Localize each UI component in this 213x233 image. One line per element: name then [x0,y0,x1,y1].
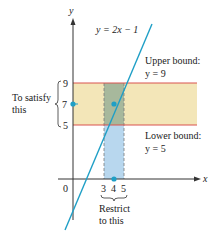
center-point [111,101,116,106]
restrict-label-line2: to this [99,215,124,226]
x-tick-3: 3 [101,183,106,194]
function-line [65,24,152,230]
lower-bound-title: Lower bound: [145,130,201,141]
lower-bound-value: y = 5 [145,143,166,154]
bottom-brace-icon [101,195,127,201]
equation-label: y = 2x − 1 [95,24,138,35]
x-tick-4: 4 [111,183,116,194]
x4-point [111,176,116,181]
satisfy-label-line1: To satisfy [12,92,51,103]
y-axis-arrow-icon [71,18,76,25]
x-axis-arrow-icon [194,177,201,182]
upper-bound-title: Upper bound: [145,55,200,66]
satisfy-label-line2: this [12,104,27,115]
epsilon-delta-diagram: y x 0 9 7 5 3 4 5 y = 2x − 1 Upper bound… [0,0,213,233]
restrict-label-line1: Restrict [99,203,130,214]
x-axis-label: x [202,173,208,184]
origin-label: 0 [63,183,68,194]
y-tick-5: 5 [63,120,68,131]
y-axis-label: y [68,5,74,16]
y-tick-9: 9 [63,78,68,89]
upper-bound-value: y = 9 [145,68,166,79]
x-tick-5: 5 [121,183,126,194]
y-tick-7: 7 [62,99,67,110]
left-brace-icon [55,81,61,127]
y-range-band [73,83,197,125]
